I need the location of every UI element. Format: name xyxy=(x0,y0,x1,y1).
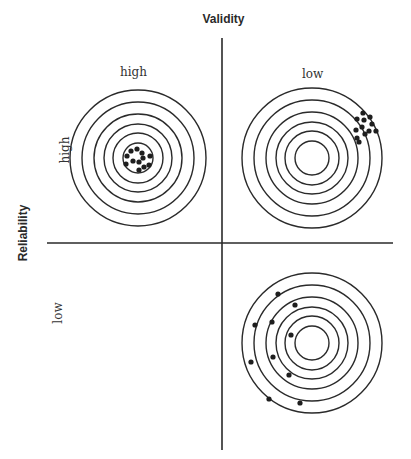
reliability-high-label: high xyxy=(58,135,72,165)
validity-high-label: high xyxy=(120,65,147,79)
validity-low-label: low xyxy=(302,67,323,81)
validity-axis-title: Validity xyxy=(0,12,411,26)
target-ring xyxy=(113,133,163,183)
target-ring xyxy=(254,100,370,216)
shot-dot xyxy=(134,146,139,151)
shot-dot xyxy=(360,110,365,115)
target-ring xyxy=(70,90,206,226)
shot-dot xyxy=(130,158,135,163)
shot-dot xyxy=(124,153,129,158)
target-ring xyxy=(254,285,370,401)
target-ring xyxy=(266,112,358,204)
shot-dot xyxy=(288,332,293,337)
target-ring xyxy=(276,307,348,379)
target-high-reliability-high-validity xyxy=(70,90,206,226)
reliability-low-label: low xyxy=(51,301,65,325)
shot-dot xyxy=(136,167,141,172)
shot-dot xyxy=(252,322,257,327)
target-ring xyxy=(242,88,382,228)
target-ring xyxy=(94,114,182,202)
reliability-axis-title: Reliability xyxy=(16,203,30,263)
target-ring xyxy=(242,273,382,413)
shot-dot xyxy=(128,148,133,153)
target-diagram xyxy=(0,0,411,459)
target-ring xyxy=(82,102,194,214)
shot-dot xyxy=(356,139,361,144)
target-ring xyxy=(104,124,172,192)
shot-dot xyxy=(373,128,378,133)
shot-dot xyxy=(362,131,367,136)
shot-dot xyxy=(270,354,275,359)
shot-dot xyxy=(141,164,146,169)
shot-dot xyxy=(369,121,374,126)
shot-dot xyxy=(297,400,302,405)
shot-dot xyxy=(361,117,366,122)
target-ring xyxy=(285,316,339,370)
target-ring xyxy=(266,297,358,389)
shot-dot xyxy=(139,150,144,155)
shot-dot xyxy=(248,359,253,364)
shot-dot xyxy=(275,291,280,296)
shot-dot xyxy=(286,372,291,377)
shot-dot xyxy=(367,114,372,119)
target-ring xyxy=(295,141,329,175)
target-ring xyxy=(285,131,339,185)
shot-dot xyxy=(136,159,141,164)
target-low-reliability-low-validity xyxy=(242,273,382,413)
shot-dot xyxy=(354,116,359,121)
shot-dot xyxy=(266,396,271,401)
shot-dot xyxy=(140,155,145,160)
shot-dot xyxy=(146,162,151,167)
shot-dot xyxy=(359,124,364,129)
shot-dot xyxy=(269,319,274,324)
target-high-reliability-low-validity xyxy=(242,88,382,228)
shot-dot xyxy=(147,153,152,158)
shot-dot xyxy=(292,302,297,307)
target-ring xyxy=(276,122,348,194)
shot-dot xyxy=(353,127,358,132)
target-ring xyxy=(295,326,329,360)
shot-dot xyxy=(123,161,128,166)
